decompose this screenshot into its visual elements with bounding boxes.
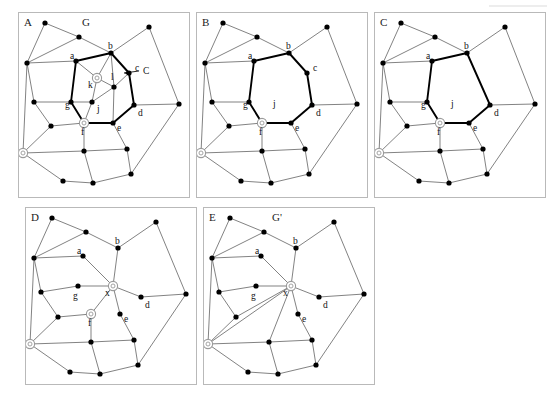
vertex bbox=[206, 342, 210, 346]
graph-edge bbox=[271, 174, 309, 183]
vertex bbox=[275, 371, 280, 376]
graph-edge bbox=[113, 248, 118, 286]
vertex-label-d: d bbox=[316, 108, 321, 118]
graph-edge bbox=[312, 104, 357, 105]
scan-artifact bbox=[489, 5, 547, 7]
graph-edge bbox=[483, 149, 487, 174]
graph-edge bbox=[34, 256, 83, 258]
vertex bbox=[55, 314, 60, 319]
vertex bbox=[437, 148, 442, 153]
vertex-label-b: b bbox=[286, 41, 291, 51]
vertex bbox=[380, 60, 385, 65]
graph-edge bbox=[261, 256, 291, 286]
vertex bbox=[404, 123, 409, 128]
vertex bbox=[81, 148, 86, 153]
graph-edge bbox=[34, 102, 51, 126]
graph-edge bbox=[291, 248, 296, 286]
vertex-x bbox=[111, 284, 115, 288]
vertex-x bbox=[289, 284, 293, 288]
vertex bbox=[238, 178, 243, 183]
vertex-c bbox=[126, 70, 131, 75]
graph-edge bbox=[201, 153, 241, 181]
vertex bbox=[38, 289, 43, 294]
vertex bbox=[216, 289, 221, 294]
vertex bbox=[226, 123, 231, 128]
vertex bbox=[67, 369, 72, 374]
graph-edge bbox=[257, 37, 289, 53]
graph-edge bbox=[91, 340, 134, 342]
vertex bbox=[398, 20, 403, 25]
graph-edge bbox=[84, 149, 127, 151]
graph-edge bbox=[30, 342, 91, 344]
vertex-label-e: e bbox=[302, 314, 306, 324]
cycle-edge bbox=[113, 105, 134, 123]
vertex bbox=[227, 215, 232, 220]
graph-edge bbox=[93, 174, 131, 183]
vertex bbox=[131, 337, 136, 342]
vertex bbox=[324, 24, 329, 29]
vertex-d bbox=[316, 294, 321, 299]
vertex-label-d: d bbox=[323, 300, 328, 310]
vertex bbox=[354, 101, 359, 106]
vertex bbox=[97, 371, 102, 376]
vertex-f bbox=[260, 121, 264, 125]
vertex bbox=[31, 255, 36, 260]
vertex-label-l: l bbox=[111, 72, 114, 82]
vertex-label-j: j bbox=[272, 99, 276, 109]
vertex bbox=[31, 99, 36, 104]
vertex bbox=[309, 337, 314, 342]
graph-edge bbox=[278, 365, 316, 374]
vertex-label-g: g bbox=[243, 100, 248, 110]
vertex-label-e: e bbox=[473, 123, 477, 133]
vertex bbox=[268, 180, 273, 185]
cycle-edge bbox=[111, 53, 129, 73]
vertex bbox=[146, 24, 151, 29]
graph-edge bbox=[419, 181, 449, 183]
cycle-edge bbox=[289, 53, 307, 73]
graph-edge bbox=[467, 27, 505, 53]
vertex-l bbox=[111, 84, 116, 89]
graph-edge bbox=[212, 218, 230, 258]
cycle-edge bbox=[291, 105, 312, 123]
graph-drawing-b: abcgjdfe bbox=[197, 13, 369, 199]
vertex-e bbox=[288, 120, 293, 125]
graph-edge bbox=[262, 151, 271, 183]
vertex-e bbox=[117, 311, 122, 316]
graph-edge bbox=[23, 151, 84, 153]
vertex-e bbox=[110, 120, 115, 125]
vertex-j bbox=[89, 99, 94, 104]
graph-edge bbox=[30, 344, 70, 372]
vertex bbox=[446, 180, 451, 185]
vertex bbox=[90, 180, 95, 185]
panel-e: abxgde bbox=[203, 207, 375, 385]
graph-edge bbox=[23, 153, 63, 181]
vertex bbox=[302, 146, 307, 151]
panel-label-d: D bbox=[31, 211, 39, 223]
graph-edge bbox=[440, 149, 483, 151]
graph-edge bbox=[134, 104, 179, 105]
graph-edge bbox=[230, 218, 264, 232]
vertex-label-j: j bbox=[450, 99, 454, 109]
vertex-label-b: b bbox=[464, 41, 469, 51]
graph-edge bbox=[114, 73, 129, 87]
vertex-f bbox=[438, 121, 442, 125]
vertex-label-x: x bbox=[283, 288, 288, 298]
cycle-edge bbox=[254, 53, 289, 61]
graph-edge bbox=[27, 63, 34, 102]
vertex bbox=[502, 24, 507, 29]
vertex bbox=[209, 99, 214, 104]
panel-label-c: C bbox=[380, 16, 387, 28]
graph-edge bbox=[223, 23, 257, 37]
graph-edge bbox=[30, 317, 58, 344]
graph-edge bbox=[86, 232, 118, 248]
vertex bbox=[24, 60, 29, 65]
graph-edge bbox=[212, 256, 261, 258]
graph-drawing-c: abgjdfe bbox=[375, 13, 547, 199]
graph-drawing-d: abxgdfe bbox=[26, 208, 198, 386]
cycle-annotation-label: C bbox=[143, 66, 149, 76]
graph-edge bbox=[23, 126, 51, 153]
vertex-label-g: g bbox=[251, 291, 256, 301]
graph-edge bbox=[289, 27, 327, 53]
graph-edge bbox=[127, 149, 131, 174]
graph-edge bbox=[201, 63, 205, 153]
